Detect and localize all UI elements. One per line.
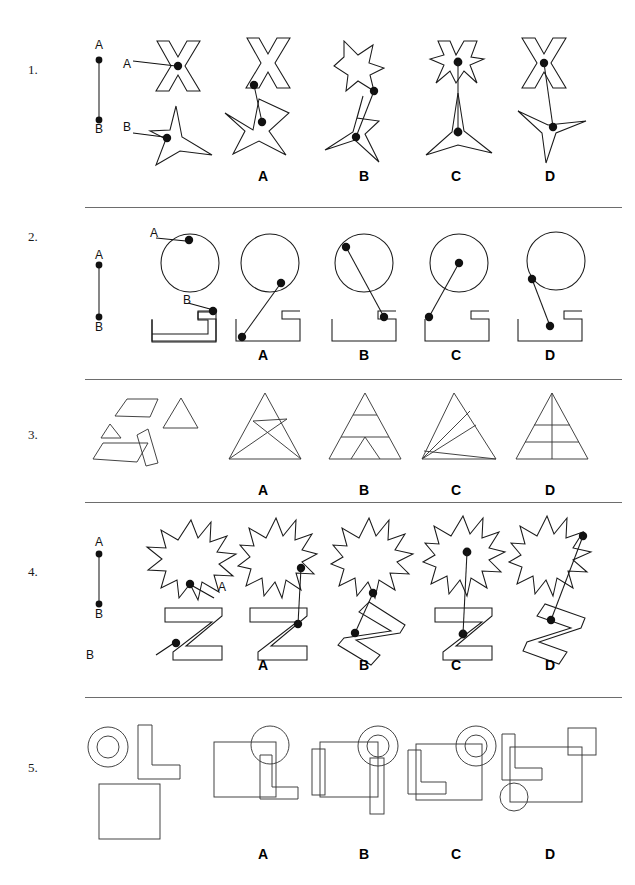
option-figure-1-c[interactable] <box>420 33 496 168</box>
question-row-1: 1. A B A B <box>0 0 635 205</box>
question-number-3: 3. <box>28 427 38 443</box>
option-label-2-b: B <box>354 347 374 363</box>
option-label-1-a: A <box>253 168 273 184</box>
question-number-5: 5. <box>28 760 38 776</box>
option-label-3-d: D <box>540 482 560 498</box>
question-number-4: 4. <box>28 564 38 580</box>
reference-label-b-1: B <box>95 122 103 136</box>
option-label-1-c: C <box>446 168 466 184</box>
option-figure-3-d[interactable] <box>512 389 596 481</box>
option-label-3-a: A <box>253 482 273 498</box>
option-figure-4-b[interactable] <box>333 512 417 662</box>
option-label-2-d: D <box>540 347 560 363</box>
reference-segment-1 <box>84 38 124 148</box>
option-figure-2-a[interactable] <box>228 225 308 350</box>
prompt-shapes-3 <box>85 391 200 481</box>
option-label-4-d: D <box>540 657 560 673</box>
option-label-3-c: C <box>446 482 466 498</box>
option-figure-1-b[interactable] <box>328 33 408 168</box>
reference-label-a-2: A <box>95 248 103 262</box>
option-label-4-b: B <box>354 657 374 673</box>
reference-segment-2 <box>84 247 124 357</box>
option-figure-2-b[interactable] <box>322 225 408 350</box>
option-figure-4-c[interactable] <box>425 512 509 662</box>
question-number-2: 2. <box>28 229 38 245</box>
prompt-label-b-1: B <box>123 120 131 134</box>
option-figure-5-a[interactable] <box>212 722 308 837</box>
prompt-label-b-2: B <box>183 293 191 307</box>
option-label-2-a: A <box>253 347 273 363</box>
option-figure-2-d[interactable] <box>508 225 594 350</box>
worksheet-page: 1. A B A B <box>0 0 635 885</box>
prompt-shapes-2 <box>128 225 243 350</box>
question-row-3: 3. A <box>0 379 635 501</box>
reference-segment-4 <box>84 532 124 642</box>
option-label-4-a: A <box>253 657 273 673</box>
prompt-shapes-1 <box>128 33 238 173</box>
option-figure-1-d[interactable] <box>510 33 596 168</box>
option-label-3-b: B <box>354 482 374 498</box>
prompt-label-a-4: A <box>218 580 226 594</box>
option-figure-4-d[interactable] <box>515 512 605 662</box>
option-label-5-a: A <box>253 846 273 862</box>
reference-label-b-4: B <box>95 607 103 621</box>
option-label-1-d: D <box>540 168 560 184</box>
option-label-4-c: C <box>446 657 466 673</box>
prompt-label-a-2: A <box>150 226 158 240</box>
option-figure-3-c[interactable] <box>418 389 502 481</box>
option-label-5-c: C <box>446 846 466 862</box>
question-row-2: 2. A B A B <box>0 207 635 377</box>
question-row-4: 4. A B A B <box>0 502 635 694</box>
option-label-5-d: D <box>540 846 560 862</box>
reference-label-a-4: A <box>95 535 103 549</box>
option-figure-5-b[interactable] <box>312 722 408 842</box>
option-label-5-b: B <box>354 846 374 862</box>
option-figure-4-a[interactable] <box>238 512 318 662</box>
option-figure-3-a[interactable] <box>225 389 305 481</box>
option-figure-5-d[interactable] <box>502 722 602 837</box>
row-divider-4 <box>85 697 622 698</box>
prompt-shapes-5 <box>82 722 202 837</box>
option-label-2-c: C <box>446 347 466 363</box>
option-label-1-b: B <box>354 168 374 184</box>
question-row-5: 5. A <box>0 700 635 885</box>
question-number-1: 1. <box>28 62 38 78</box>
option-figure-5-c[interactable] <box>408 722 508 837</box>
prompt-shapes-4 <box>128 512 248 662</box>
option-figure-3-b[interactable] <box>325 389 405 481</box>
prompt-label-a-1: A <box>123 57 131 71</box>
reference-label-b-2: B <box>95 320 103 334</box>
option-figure-2-c[interactable] <box>415 225 501 350</box>
prompt-label-b-4: B <box>86 648 94 662</box>
option-figure-1-a[interactable] <box>228 33 300 168</box>
reference-label-a-1: A <box>95 38 103 52</box>
